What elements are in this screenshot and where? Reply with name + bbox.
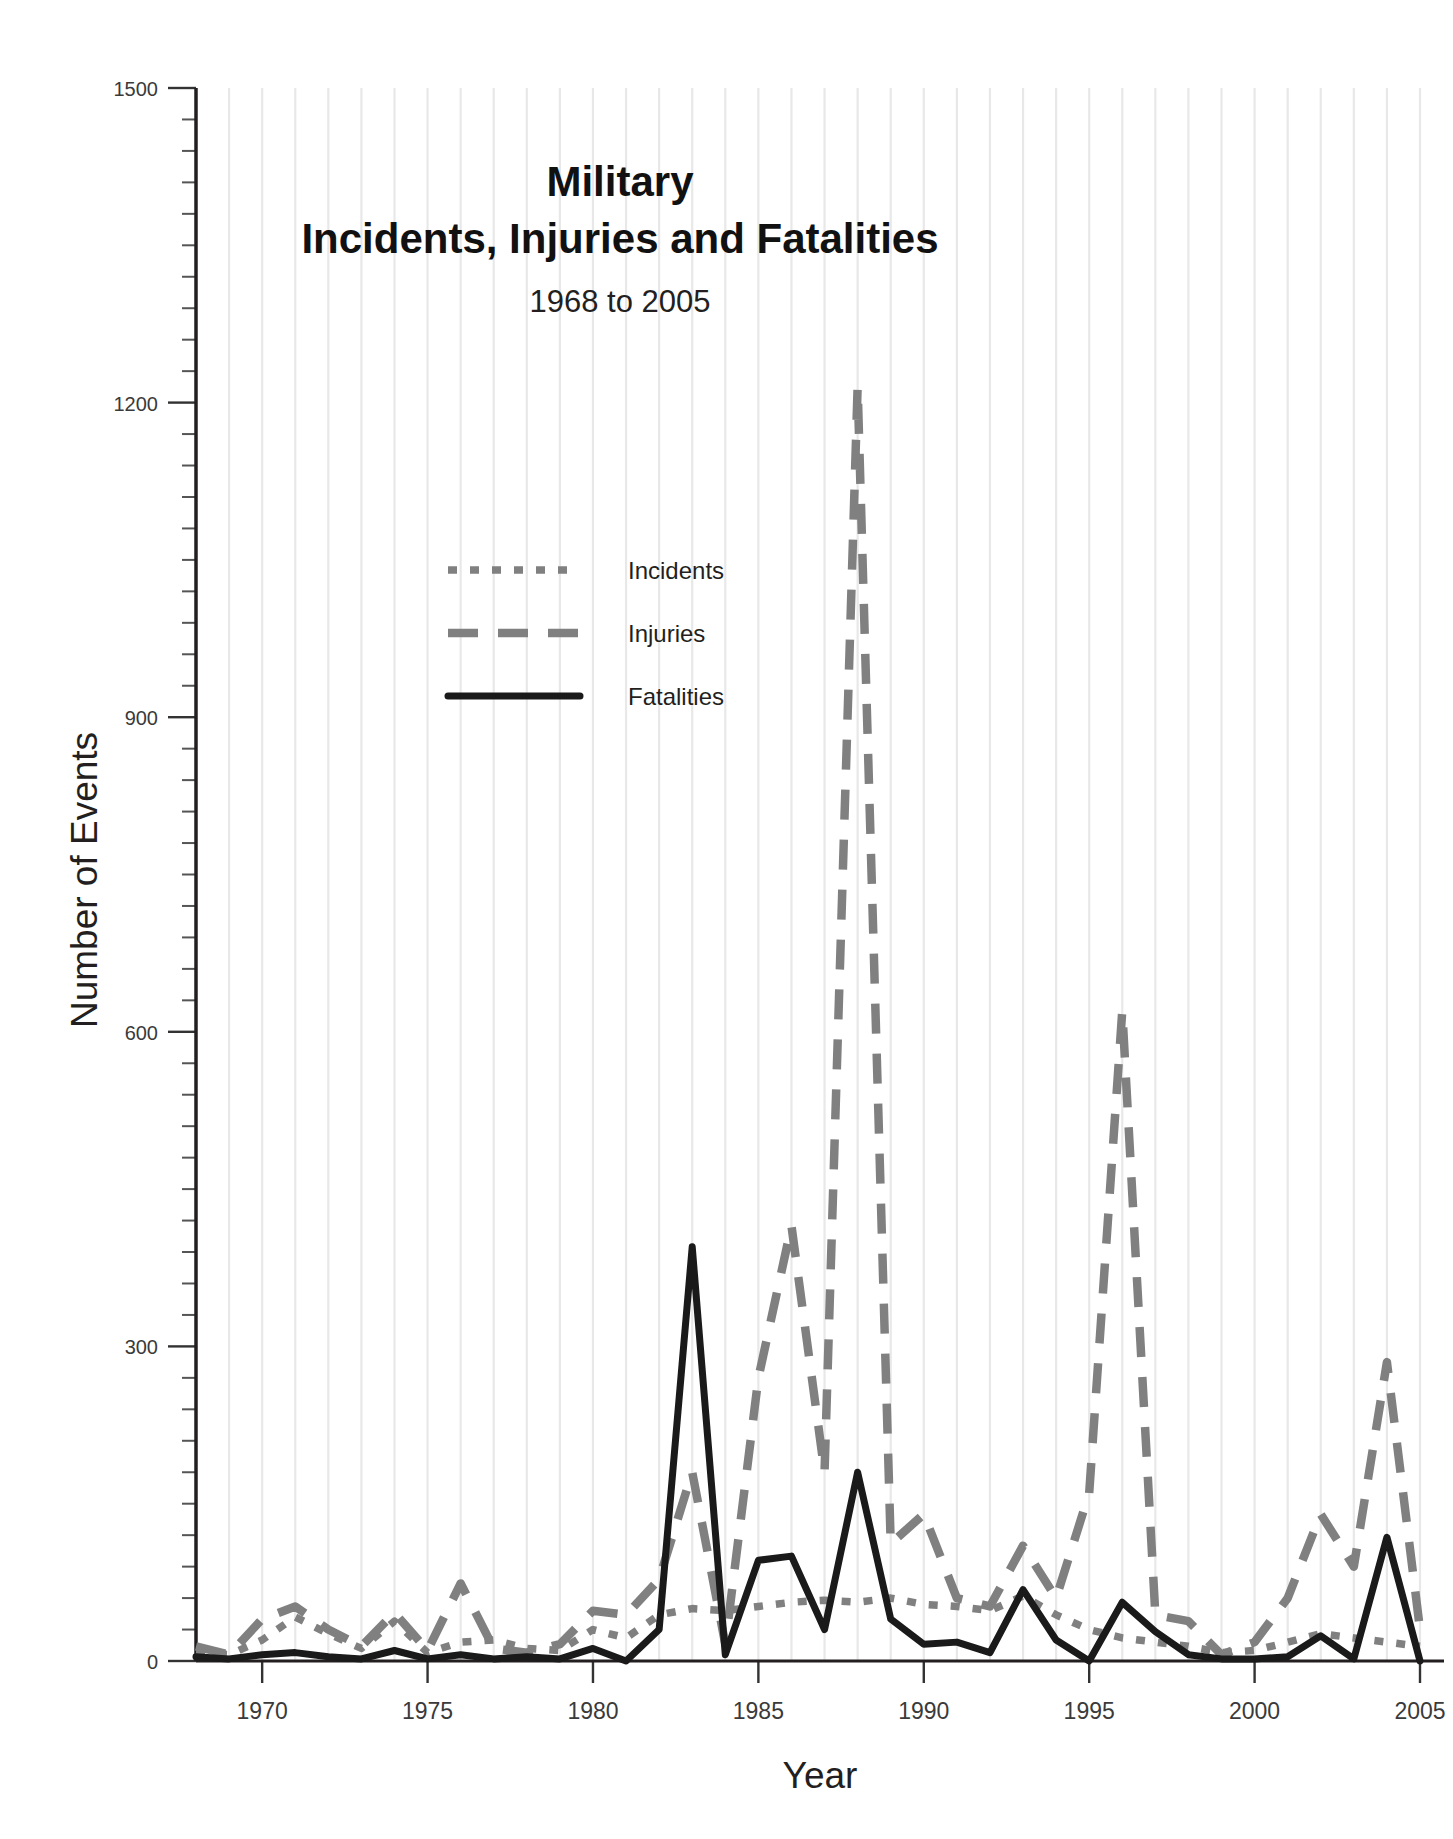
x-tick-label-1995: 1995 — [1064, 1698, 1115, 1724]
chart-figure: 030060090012001500 197019751980198519901… — [0, 0, 1453, 1839]
y-tick-label-600: 600 — [125, 1022, 158, 1044]
legend-label-incidents: Incidents — [628, 557, 724, 584]
x-tick-label-2005: 2005 — [1394, 1698, 1445, 1724]
x-tick-label-1985: 1985 — [733, 1698, 784, 1724]
y-tick-label-300: 300 — [125, 1336, 158, 1358]
y-tick-label-0: 0 — [147, 1651, 158, 1673]
chart-subtitle: 1968 to 2005 — [529, 284, 710, 319]
chart-title-line-2: Incidents, Injuries and Fatalities — [301, 215, 938, 262]
x-tick-label-1975: 1975 — [402, 1698, 453, 1724]
x-tick-label-1970: 1970 — [237, 1698, 288, 1724]
legend-label-fatalities: Fatalities — [628, 683, 724, 710]
line-chart-svg: 030060090012001500 197019751980198519901… — [0, 0, 1453, 1839]
y-axis-title: Number of Events — [64, 732, 105, 1028]
y-tick-label-900: 900 — [125, 707, 158, 729]
y-tick-label-1500: 1500 — [114, 78, 159, 100]
x-tick-label-1980: 1980 — [567, 1698, 618, 1724]
x-tick-label-2000: 2000 — [1229, 1698, 1280, 1724]
x-tick-label-1990: 1990 — [898, 1698, 949, 1724]
x-axis-title: Year — [783, 1755, 858, 1796]
legend-label-injuries: Injuries — [628, 620, 705, 647]
chart-background — [0, 0, 1453, 1839]
chart-canvas: 030060090012001500 197019751980198519901… — [0, 0, 1453, 1839]
chart-title-line-1: Military — [546, 158, 694, 205]
y-tick-label-1200: 1200 — [114, 393, 159, 415]
